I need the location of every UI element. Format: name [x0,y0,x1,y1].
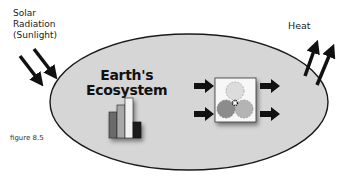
solar-radiation-label: Solar Radiation (Sunlight) [13,8,57,41]
title-line1: Earth's [86,68,167,83]
solar-label-line2: Radiation [13,19,57,30]
solar-label-line3: (Sunlight) [13,30,57,41]
ecosystem-ellipse [50,34,328,170]
heat-label: Heat [288,20,311,31]
gears-icon [215,78,256,122]
solar-label-line1: Solar [13,8,57,19]
ecosystem-title: Earth's Ecosystem [86,68,167,98]
title-line2: Ecosystem [86,83,167,98]
solar-arrows-icon [20,49,54,82]
figure-caption: figure 8.5 [10,134,44,142]
